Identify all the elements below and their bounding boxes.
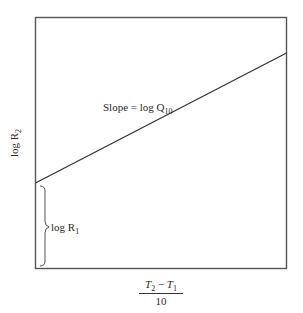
diagram-canvas: Slope = log Q10 log R1 log R2 T2 − T1 10 <box>0 0 303 313</box>
trend-line <box>36 53 287 183</box>
intercept-brace-icon <box>40 186 49 266</box>
x-axis-numerator: T2 − T1 <box>145 278 177 293</box>
slope-label: Slope = log Q10 <box>103 101 173 116</box>
intercept-label: log R1 <box>51 221 79 236</box>
x-axis-label: T2 − T1 10 <box>139 278 183 307</box>
x-axis-denominator: 10 <box>156 295 168 307</box>
svg-text:log R2: log R2 <box>8 129 23 157</box>
y-axis-label: log R2 <box>8 129 23 157</box>
